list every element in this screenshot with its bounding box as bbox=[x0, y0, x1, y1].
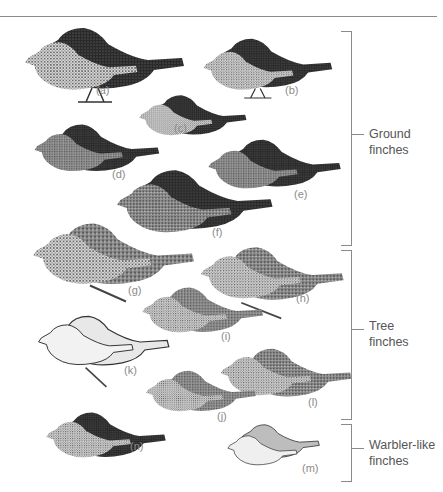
bird-label-c: (c) bbox=[174, 122, 187, 134]
bird-label-h: (h) bbox=[296, 292, 309, 304]
finch-illustration-icon bbox=[140, 278, 250, 344]
ground-finches-bracket bbox=[341, 31, 352, 246]
finch-pair-i bbox=[140, 278, 250, 344]
ground-finches-label-line1: Ground bbox=[369, 126, 411, 142]
bird-label-e: (e) bbox=[294, 188, 307, 200]
finch-pair-n bbox=[44, 406, 154, 466]
finch-pair-k bbox=[36, 302, 156, 382]
tree-finches-label-line1: Tree bbox=[369, 318, 409, 334]
top-rule bbox=[0, 16, 437, 17]
bird-label-n: (n) bbox=[130, 440, 143, 452]
warbler-finches-bracket bbox=[341, 424, 352, 482]
finch-illustration-icon bbox=[144, 361, 244, 423]
tree-finches-bracket bbox=[341, 250, 352, 420]
warbler-finches-bracket-tick bbox=[352, 448, 364, 449]
finch-illustration-icon bbox=[196, 34, 326, 98]
finch-pair-b bbox=[196, 34, 326, 98]
warbler-finches-label-line2: finches bbox=[369, 453, 435, 469]
tree-finches-bracket-tick bbox=[352, 329, 364, 330]
ground-finches-bracket-tick bbox=[352, 134, 364, 135]
bird-label-l: (l) bbox=[308, 396, 318, 408]
bird-label-m: (m) bbox=[302, 462, 319, 474]
tree-finches-label-line2: finches bbox=[369, 334, 409, 350]
bird-label-b: (b) bbox=[285, 84, 298, 96]
ground-finches-label-line2: finches bbox=[369, 142, 411, 158]
bird-label-a: (a) bbox=[96, 84, 109, 96]
bird-label-k: (k) bbox=[124, 364, 137, 376]
warbler-finches-label-line1: Warbler-like bbox=[369, 437, 435, 453]
finch-pair-j bbox=[144, 361, 244, 423]
tree-finches-label: Tree finches bbox=[369, 318, 409, 350]
warbler-finches-label: Warbler-like finches bbox=[369, 437, 435, 469]
finch-illustration-icon bbox=[36, 302, 156, 382]
ground-finches-label: Ground finches bbox=[369, 126, 411, 158]
finch-illustration-icon bbox=[44, 406, 154, 466]
